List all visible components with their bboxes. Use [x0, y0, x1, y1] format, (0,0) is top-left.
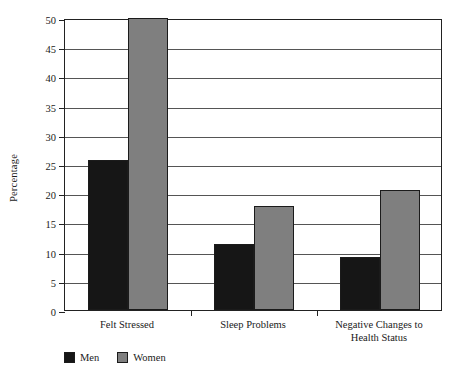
- y-axis-tick: [59, 254, 65, 255]
- y-axis-tick-label: 5: [51, 277, 56, 288]
- chart-legend: MenWomen: [64, 352, 166, 363]
- y-axis-tick: [59, 20, 65, 21]
- legend-item-men[interactable]: Men: [64, 352, 99, 363]
- legend-swatch-icon: [117, 352, 128, 363]
- y-axis-tick: [59, 195, 65, 196]
- y-axis-tick-label: 10: [46, 248, 57, 259]
- y-axis-tick: [59, 78, 65, 79]
- y-axis-title: Percentage: [8, 118, 24, 238]
- bar-chart: Percentage 05101520253035404550 Felt Str…: [0, 0, 459, 383]
- bar-women-2: [380, 190, 420, 310]
- gridline: [65, 137, 441, 138]
- y-axis-tick: [59, 49, 65, 50]
- y-axis-tick-label: 0: [51, 307, 56, 318]
- y-axis-tick-label: 45: [46, 44, 57, 55]
- gridline: [65, 49, 441, 50]
- bar-men-0: [88, 160, 128, 310]
- category-label-2: Negative Changes to Health Status: [304, 318, 454, 344]
- y-axis-tick-label: 25: [46, 161, 57, 172]
- plot-area: 05101520253035404550: [64, 19, 442, 311]
- y-axis-tick-label: 20: [46, 190, 57, 201]
- legend-label: Men: [80, 352, 99, 363]
- y-axis-tick-label: 15: [46, 219, 57, 230]
- y-axis-tick: [59, 137, 65, 138]
- y-axis-tick: [59, 108, 65, 109]
- gridline: [65, 108, 441, 109]
- y-axis-tick-label: 50: [46, 15, 57, 26]
- x-axis-tick: [317, 310, 318, 316]
- legend-swatch-icon: [64, 352, 75, 363]
- legend-item-women[interactable]: Women: [117, 352, 165, 363]
- y-axis-tick: [59, 166, 65, 167]
- y-axis-tick: [59, 224, 65, 225]
- bar-women-1: [254, 206, 294, 310]
- gridline: [65, 78, 441, 79]
- y-axis-tick: [59, 283, 65, 284]
- plot-inner: 05101520253035404550: [65, 20, 441, 310]
- bar-men-2: [340, 257, 380, 310]
- y-axis-tick-label: 35: [46, 102, 57, 113]
- legend-label: Women: [133, 352, 165, 363]
- bar-men-1: [214, 244, 254, 310]
- bar-women-0: [128, 18, 168, 310]
- y-axis-tick-label: 40: [46, 73, 57, 84]
- y-axis-tick: [59, 312, 65, 313]
- x-axis-tick: [191, 310, 192, 316]
- y-axis-tick-label: 30: [46, 131, 57, 142]
